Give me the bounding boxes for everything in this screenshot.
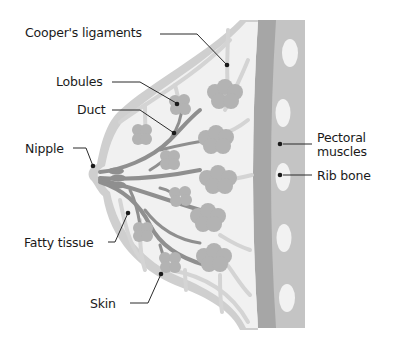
label-rib-bone: Rib bone <box>317 168 371 183</box>
breast-anatomy-diagram: Cooper's ligaments Lobules Duct Nipple F… <box>0 0 396 348</box>
label-fatty-tissue: Fatty tissue <box>24 235 94 250</box>
label-coopers-ligaments: Cooper's ligaments <box>25 25 142 40</box>
label-lobules: Lobules <box>56 74 103 89</box>
label-nipple: Nipple <box>25 141 64 156</box>
lactiferous-sinuses <box>108 168 126 189</box>
label-skin: Skin <box>90 296 116 311</box>
label-duct: Duct <box>77 102 106 117</box>
label-pectoral-muscles-line2: muscles <box>317 144 367 159</box>
label-pectoral-muscles-line1: Pectoral <box>317 130 366 145</box>
